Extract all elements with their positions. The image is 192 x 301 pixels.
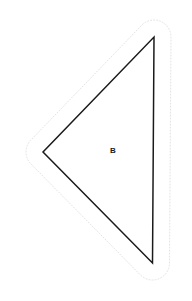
- shape-figure-svg: B: [0, 0, 192, 301]
- triangle-shape-b[interactable]: [43, 37, 154, 263]
- shape-label-b: B: [110, 146, 116, 155]
- figure-canvas: B: [0, 0, 192, 301]
